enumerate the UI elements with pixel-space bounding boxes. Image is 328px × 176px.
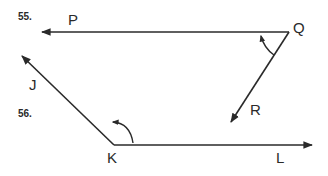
problem-number-55: 55.	[18, 12, 32, 22]
angle-arc-q	[261, 36, 274, 55]
label-k: K	[107, 150, 117, 165]
angle-arc-k	[113, 122, 133, 143]
label-q: Q	[293, 20, 305, 35]
label-p: P	[68, 12, 78, 27]
label-l: L	[276, 150, 284, 165]
ray-kj	[22, 56, 114, 145]
problem-number-56: 56.	[18, 109, 32, 119]
label-j: J	[29, 77, 37, 92]
label-r: R	[250, 102, 261, 117]
